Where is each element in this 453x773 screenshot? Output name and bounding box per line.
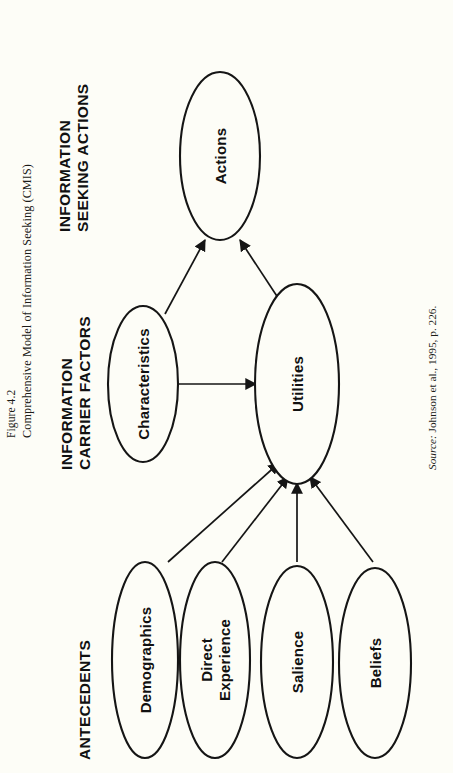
edge-characteristics-to-actions bbox=[165, 240, 205, 314]
node-characteristics-label: Characteristics bbox=[135, 328, 152, 439]
node-demographics-label: Demographics bbox=[137, 607, 154, 714]
node-direct-experience[interactable]: Direct Experience bbox=[180, 562, 250, 758]
node-utilities-label: Utilities bbox=[289, 356, 306, 412]
node-direct-experience-label-line1: Direct bbox=[198, 638, 215, 682]
node-utilities[interactable]: Utilities bbox=[255, 284, 339, 484]
node-salience[interactable]: Salience bbox=[261, 566, 333, 758]
node-actions-label: Actions bbox=[212, 128, 229, 184]
node-demographics[interactable]: Demographics bbox=[112, 562, 178, 758]
node-characteristics[interactable]: Characteristics bbox=[108, 306, 178, 462]
edge-direct-experience-to-utilities bbox=[222, 477, 288, 562]
node-salience-label: Salience bbox=[289, 631, 306, 693]
edge-beliefs-to-utilities bbox=[310, 477, 373, 562]
node-direct-experience-label-line2: Experience bbox=[216, 619, 233, 701]
edge-demographics-to-utilities bbox=[168, 463, 279, 562]
node-actions[interactable]: Actions bbox=[180, 72, 260, 240]
cmis-diagram: Actions Characteristics Utilities Demogr… bbox=[0, 0, 453, 773]
node-beliefs[interactable]: Beliefs bbox=[339, 568, 411, 758]
node-beliefs-label: Beliefs bbox=[367, 638, 384, 689]
figure-page: Figure 4.2 Comprehensive Model of Inform… bbox=[0, 0, 453, 773]
diagram-nodes: Actions Characteristics Utilities Demogr… bbox=[108, 72, 411, 758]
